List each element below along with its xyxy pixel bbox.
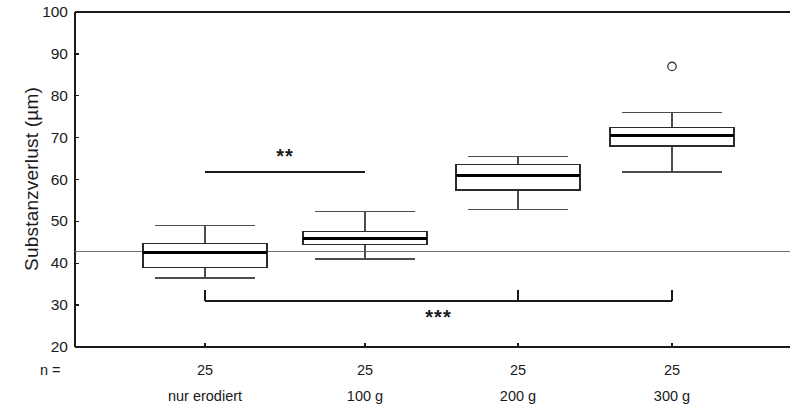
y-axis-tick-label: 40 — [28, 254, 68, 272]
x-axis-n-value: 25 — [357, 362, 373, 378]
y-axis-tick-labels: 2030405060708090100 — [28, 0, 68, 411]
plot-area — [0, 0, 800, 411]
y-axis-tick-label: 20 — [28, 338, 68, 356]
box-plot-figure: Substanzverlust (µm) 2030405060708090100… — [0, 0, 800, 411]
y-axis-tick-label: 30 — [28, 296, 68, 314]
x-axis-n-value: 25 — [197, 362, 213, 378]
box — [456, 165, 580, 190]
y-axis-tick-label: 100 — [28, 3, 68, 21]
box — [143, 243, 267, 267]
x-axis-category-label: 300 g — [654, 388, 690, 404]
x-axis-category-label: nur erodiert — [168, 388, 242, 404]
y-axis-tick-label: 80 — [28, 87, 68, 105]
significance-label: ** — [276, 146, 294, 166]
x-axis-category-label: 100 g — [347, 388, 383, 404]
y-axis-tick-label: 50 — [28, 212, 68, 230]
y-axis-tick-label: 60 — [28, 171, 68, 189]
y-axis-tick-label: 70 — [28, 129, 68, 147]
x-axis-n-value: 25 — [664, 362, 680, 378]
y-axis-tick-label: 90 — [28, 45, 68, 63]
significance-label: *** — [425, 307, 451, 327]
x-axis-n-value: 25 — [510, 362, 526, 378]
outlier-point — [668, 62, 676, 70]
n-equals-label: n = — [40, 362, 61, 378]
x-axis-category-label: 200 g — [500, 388, 536, 404]
